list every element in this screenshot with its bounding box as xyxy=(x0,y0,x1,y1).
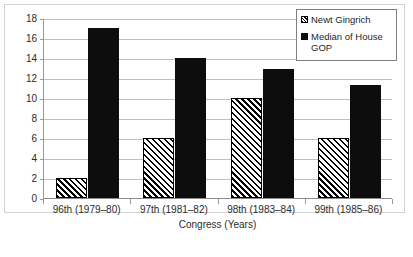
y-axis-label-12: 12 xyxy=(3,74,37,84)
bar-median-3 xyxy=(263,69,294,198)
legend-item-median-of-house-gop: Median of House GOP xyxy=(301,31,393,53)
bar-median-1 xyxy=(88,28,119,198)
y-tick-14 xyxy=(40,59,44,60)
x-axis-label-2: 97th (1981–82) xyxy=(130,203,217,217)
bar-median-4 xyxy=(350,85,381,198)
y-axis-label-2: 2 xyxy=(3,174,37,184)
x-axis-label-1: 96th (1979–80) xyxy=(43,203,130,217)
legend-label: Median of House GOP xyxy=(311,31,393,53)
legend-swatch-solid-icon xyxy=(301,33,308,40)
y-tick-8 xyxy=(40,119,44,120)
y-tick-2 xyxy=(40,179,44,180)
y-axis-label-16: 16 xyxy=(3,34,37,44)
bar-median-2 xyxy=(175,58,206,198)
x-axis-separator-4 xyxy=(392,199,393,204)
y-axis-label-18: 18 xyxy=(3,14,37,24)
x-axis-label-3: 98th (1983–84) xyxy=(218,203,305,217)
y-tick-18 xyxy=(40,19,44,20)
y-tick-12 xyxy=(40,79,44,80)
legend-label: Newt Gingrich xyxy=(311,14,371,25)
y-axis-label-8: 8 xyxy=(3,114,37,124)
y-axis-label-6: 6 xyxy=(3,134,37,144)
bar-gingrich-1 xyxy=(56,178,87,198)
y-tick-16 xyxy=(40,39,44,40)
y-axis-label-0: 0 xyxy=(3,194,37,204)
y-tick-6 xyxy=(40,139,44,140)
legend-item-newt-gingrich: Newt Gingrich xyxy=(301,14,393,25)
bar-gingrich-3 xyxy=(231,98,262,198)
bar-gingrich-4 xyxy=(318,138,349,198)
y-tick-10 xyxy=(40,99,44,100)
bar-gingrich-2 xyxy=(143,138,174,198)
y-tick-4 xyxy=(40,159,44,160)
y-axis-label-4: 4 xyxy=(3,154,37,164)
y-axis-label-10: 10 xyxy=(3,94,37,104)
y-axis-label-14: 14 xyxy=(3,54,37,64)
x-axis-label-4: 99th (1985–86) xyxy=(305,203,392,217)
x-axis-labels: 96th (1979–80)97th (1981–82)98th (1983–8… xyxy=(43,203,392,219)
x-axis-title: Congress (Years) xyxy=(43,219,392,231)
legend-swatch-hatched-icon xyxy=(301,16,308,23)
bar-chart-figure: 024681012141618 96th (1979–80)97th (1981… xyxy=(0,0,413,257)
chart-legend: Newt Gingrich Median of House GOP xyxy=(296,9,397,61)
y-axis: 024681012141618 xyxy=(0,19,37,199)
